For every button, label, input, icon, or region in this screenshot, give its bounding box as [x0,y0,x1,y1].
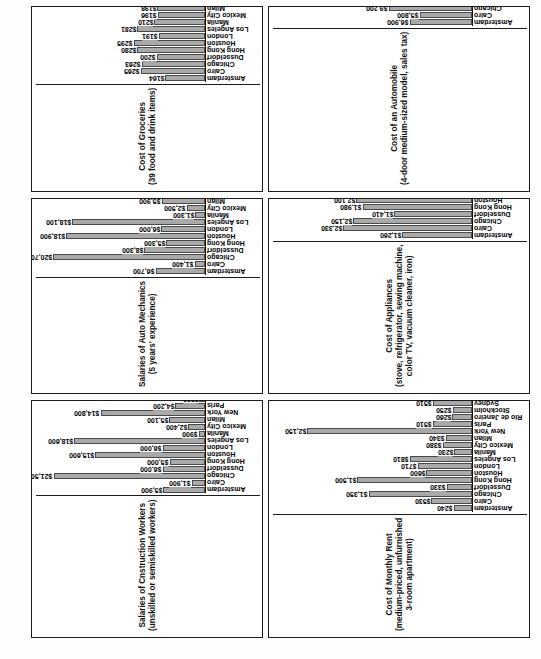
chart-title-container-appliances: Cost of Appliances (stove, refrigerator,… [273,241,527,390]
plot-area-construction-workers: $5,900$1,900$21,500$6,000$5,000$15,600$6… [36,400,260,493]
bar-item: $800 [36,400,205,402]
bar-item: $20,700 [36,254,205,261]
category-label: Chicago [473,218,527,225]
bar-item: $191 [36,33,205,40]
bar-item: $5,900 [36,198,205,205]
chart-panel-auto-mechanics: Salaries of Auto Mechanics (5 years' exp… [31,198,263,394]
bar [137,47,205,53]
bar-item: $2,330 [273,225,472,232]
bar-value-label: $1,350 [346,490,367,499]
bar-value-label: $1,500 [335,476,356,485]
bar-item: $281 [36,26,205,33]
bar-value-label: $14,800 [74,408,99,417]
bar-value-label: $1,260 [380,231,401,240]
chart-title-container-monthly-rent: Cost of Monthly Rent (medium-priced, unf… [273,514,527,634]
category-label: Cairo [473,12,527,19]
category-label: Dusseldorf [473,211,527,218]
bar [101,410,205,416]
category-label: Mexico City [206,12,260,19]
bar-item: $14,800 [36,409,205,416]
category-label: Los Angeles [206,437,260,444]
bar [154,19,205,25]
bar-item: $810 [273,456,472,463]
plot-area-automobile: $6,900$5,800$9,200$5,600$13,500$8,600$7,… [273,6,527,26]
bar-value-label: $230 [438,400,454,401]
category-label: Houston [473,198,527,204]
category-label: Paris [473,421,527,428]
chart-title-container-groceries: Cost of Groceries (39 food and drink ite… [36,84,260,188]
category-label: Amsterdam [206,268,260,275]
bars-groceries: $164$265$263$200$280$295$191$281$210$196… [36,6,206,82]
bar [433,421,472,427]
category-label: Houston [473,470,527,477]
category-axis-auto-mechanics: AmsterdamCairoChicagoDusseldorfHong Kong… [206,198,260,275]
chart-body-monthly-rent: Cost of Monthly Rent (medium-priced, unf… [269,401,529,637]
category-label: Manila [206,212,260,219]
category-label: Dusseldorf [206,247,260,254]
bars-auto-mechanics: $6,700$1,400$20,700$8,300$5,300$18,900$6… [36,198,206,275]
bar [157,54,205,60]
bar [162,198,205,204]
bar [95,452,205,458]
category-label: London [473,463,527,470]
chart-body-appliances: Cost of Appliances (stove, refrigerator,… [269,199,529,393]
chart-title-automobile: Cost of an Automobile (4-door medium-siz… [390,32,409,185]
bar-value-label: $164 [149,74,165,83]
bar-value-label: $21,500 [31,471,53,480]
bar [192,480,205,486]
bar-item: $330 [273,484,472,491]
bar [410,19,472,25]
bar-value-label: $4,200 [153,401,174,410]
category-label: New York [473,428,527,435]
bar-item: $2,150 [273,218,472,225]
bar-item: $1,410 [273,211,472,218]
bar-value-label: $200 [140,53,156,62]
bar-value-label: $18,600 [48,436,73,445]
bar-value-label: $15,600 [69,450,94,459]
bar [163,487,205,493]
bar-item: $5,000 [36,458,205,465]
category-label: Cairo [206,68,260,75]
bar [452,414,472,420]
bar-value-label: $1,400 [172,260,193,269]
bar-item: $250 [273,407,472,414]
bar [357,477,472,483]
bar [307,428,472,434]
bar-value-label: $6,700 [133,267,154,276]
bar-item: $260 [273,414,472,421]
chart-rotated-construction-workers: Salaries of Cnstruction Workers (unskill… [32,401,262,637]
bar-item: $2,100 [273,198,472,204]
bar-item: $6,000 [36,444,205,451]
chart-panel-automobile: Cost of an Automobile (4-door medium-siz… [268,6,530,192]
bar [343,225,472,231]
bar-item: $2,150 [273,428,472,435]
bar [163,466,205,472]
chart-title-groceries: Cost of Groceries (39 food and drink ite… [138,88,157,185]
bar [166,240,205,246]
bar [144,247,205,253]
bar-value-label: $250 [436,406,452,415]
chart-body-groceries: Cost of Groceries (39 food and drink ite… [32,7,262,191]
category-label: Houston [206,451,260,458]
category-label: Manila [473,449,527,456]
bar-item: $280 [36,47,205,54]
bar-item: $6,000 [36,465,205,472]
bar-item: $4,200 [36,402,205,409]
bar [394,211,472,217]
bars-monthly-rent: $240$530$1,350$330$1,500$600$710$810$230… [273,400,473,512]
bar-value-label: $510 [416,400,432,408]
plot-area-monthly-rent: $240$530$1,350$330$1,500$600$710$810$230… [273,400,527,512]
bar [175,403,205,409]
bar [195,261,205,267]
bar-item: $6,700 [36,268,205,275]
bar [369,491,472,497]
bar-item: $1,350 [273,491,472,498]
bar-item: $164 [36,75,205,82]
category-label: Houston [206,40,260,47]
chart-panel-construction-workers: Salaries of Cnstruction Workers (unskill… [31,400,263,638]
bar [159,33,205,39]
bar-item: $21,500 [36,472,205,479]
bar-item: $1,400 [36,261,205,268]
bar-item: $18,900 [36,233,205,240]
bar-item: $2,500 [36,205,205,212]
